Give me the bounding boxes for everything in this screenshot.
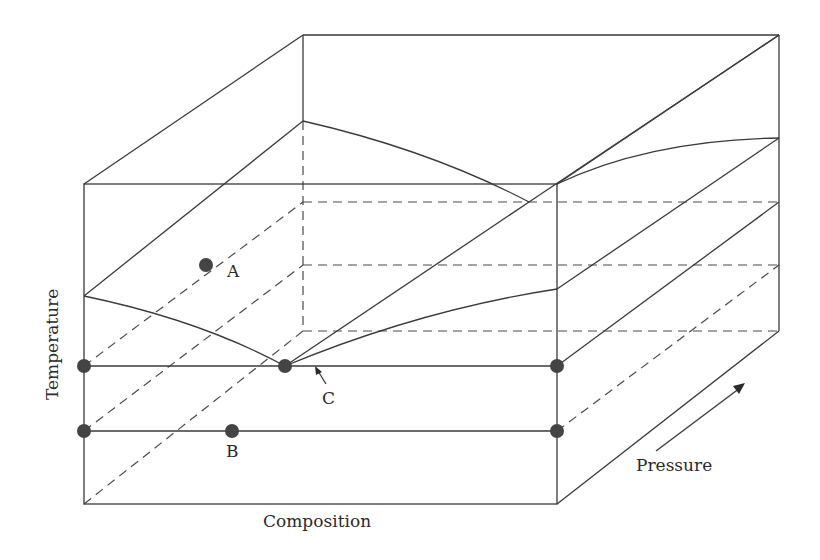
point-a	[199, 258, 213, 272]
arrowhead-icon	[315, 366, 322, 375]
label-a: A	[226, 261, 240, 281]
points	[77, 258, 564, 438]
label-b: B	[226, 441, 239, 461]
hidden-edges	[84, 121, 779, 504]
x-axis-label: Composition	[263, 511, 371, 531]
isotherm-left-point	[77, 424, 91, 438]
phase-diagram-3d: A B C Composition Temperature Pressure	[0, 0, 820, 560]
z-axis-label: Pressure	[636, 455, 712, 475]
y-axis-label: Temperature	[42, 289, 62, 400]
label-c: C	[322, 388, 335, 408]
phase-surfaces	[84, 35, 779, 431]
point-b	[225, 424, 239, 438]
isotherm-right-point	[550, 424, 564, 438]
c-arrow	[315, 366, 326, 384]
eutectic-left-point	[77, 359, 91, 373]
eutectic-point	[278, 359, 292, 373]
eutectic-right-point	[550, 359, 564, 373]
